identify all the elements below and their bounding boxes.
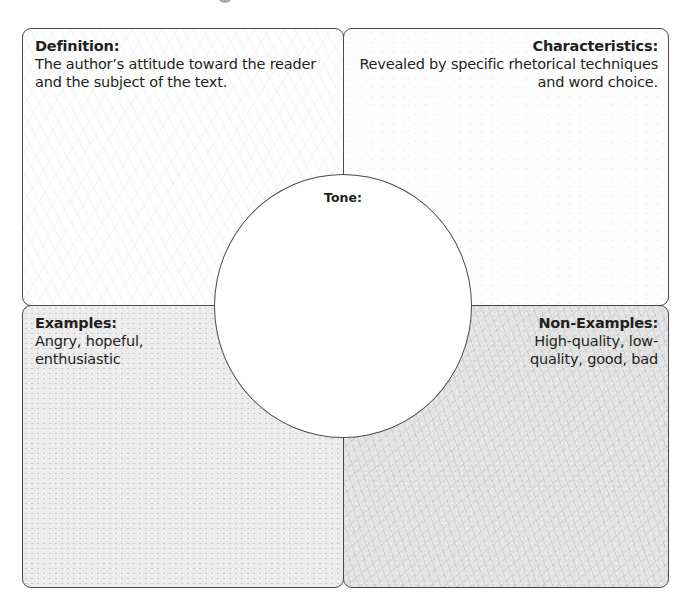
characteristics-heading: Characteristics: (358, 37, 658, 55)
cropped-title-fragment (218, 0, 232, 3)
non-examples-heading: Non-Examples: (508, 314, 658, 332)
definition-heading: Definition: (35, 37, 340, 55)
definition-label: Definition: The author’s attitude toward… (35, 37, 340, 91)
non-examples-text: High-quality, low-quality, good, bad (508, 332, 658, 368)
examples-text: Angry, hopeful, enthusiastic (35, 332, 195, 368)
characteristics-label: Characteristics: Revealed by specific rh… (358, 37, 658, 91)
term-circle: Tone: (214, 174, 472, 438)
definition-text: The author’s attitude toward the reader … (35, 55, 340, 91)
examples-label: Examples: Angry, hopeful, enthusiastic (35, 314, 195, 368)
characteristics-text: Revealed by specific rhetorical techniqu… (358, 55, 658, 91)
non-examples-label: Non-Examples: High-quality, low-quality,… (508, 314, 658, 368)
examples-heading: Examples: (35, 314, 195, 332)
term-label: Tone: (215, 190, 471, 205)
